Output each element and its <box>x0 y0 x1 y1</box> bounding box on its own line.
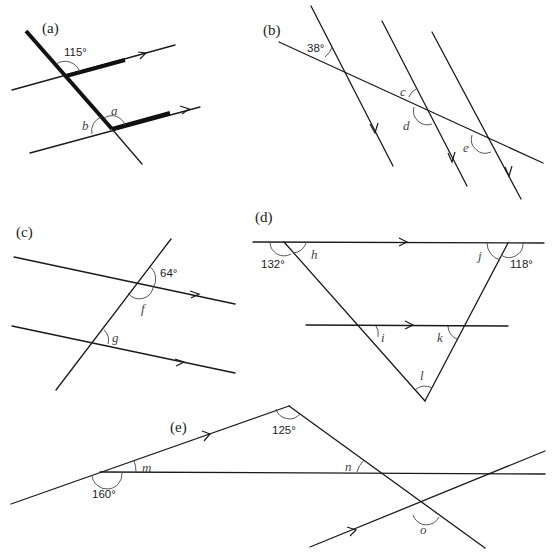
parallel-line-2 <box>12 326 235 373</box>
angle-arc-d <box>413 107 432 125</box>
angles-worksheet: (a) 115° a b (b) 38° c d e <box>0 0 560 560</box>
parallel-line-1 <box>311 6 393 166</box>
angle-arc-l <box>415 386 432 390</box>
angle-arc-160 <box>92 473 122 489</box>
parallel-line-1-bold <box>66 60 125 76</box>
angle-label-k: k <box>437 330 443 345</box>
angle-arc-j <box>487 243 500 260</box>
parallel-line-2 <box>382 21 467 186</box>
angle-arc-125 <box>276 409 300 419</box>
angle-label-m: m <box>142 460 151 475</box>
parallel-line-1 <box>14 257 235 304</box>
angle-arc-h <box>293 243 306 253</box>
angle-arc-132 <box>270 243 291 256</box>
angle-label-38: 38° <box>307 42 324 54</box>
transversal <box>279 42 543 163</box>
parallel-arrow-icon <box>180 106 189 114</box>
descending-line <box>289 406 485 548</box>
angle-label-d: d <box>403 118 410 133</box>
transversal <box>56 239 171 390</box>
angle-label-a: a <box>111 103 118 118</box>
diagram-d-label: (d) <box>255 209 273 226</box>
angle-arc-m <box>134 461 136 472</box>
angle-label-l: l <box>420 368 424 383</box>
triangle-left-side <box>284 242 425 401</box>
middle-parallel-line <box>306 325 508 326</box>
angle-arc-i <box>376 326 378 337</box>
angle-label-j: j <box>476 248 482 263</box>
angle-label-118: 118° <box>510 258 533 270</box>
diagram-e: (e) 125° 160° m n o <box>11 406 545 548</box>
angle-label-i: i <box>381 330 385 345</box>
horizontal-line <box>100 472 545 474</box>
diagram-a: (a) 115° a b <box>12 20 200 164</box>
upper-left-line <box>11 406 289 504</box>
diagram-c: (c) 64° f g <box>12 224 235 390</box>
angle-label-b: b <box>82 118 89 133</box>
angle-arc-k <box>448 326 457 339</box>
top-parallel-line <box>253 242 544 243</box>
diagram-c-label: (c) <box>16 224 33 241</box>
angle-arc-38 <box>325 47 332 57</box>
angle-label-g: g <box>112 330 119 345</box>
diagram-e-label: (e) <box>170 419 187 436</box>
angle-label-f: f <box>141 301 147 316</box>
angle-label-160: 160° <box>92 488 116 500</box>
angle-arc-c <box>409 89 416 97</box>
diagram-b-label: (b) <box>263 22 281 39</box>
angle-arc-g <box>104 330 109 344</box>
diagram-b: (b) 38° c d e <box>263 6 543 199</box>
angle-arc-64 <box>149 266 156 288</box>
parallel-line-2-bold <box>112 113 170 129</box>
angle-arc-b <box>92 117 102 134</box>
angle-label-c: c <box>400 84 406 99</box>
angle-label-n: n <box>345 459 352 474</box>
diagram-a-label: (a) <box>42 20 59 37</box>
angle-label-e: e <box>463 140 469 155</box>
parallel-arrow-icon <box>175 359 184 366</box>
angle-label-64: 64° <box>160 267 177 279</box>
angle-label-125: 125° <box>272 424 296 436</box>
angle-arc-n <box>357 460 364 472</box>
angle-label-115: 115° <box>64 46 87 58</box>
angle-label-h: h <box>311 247 318 262</box>
angle-label-132: 132° <box>261 258 285 270</box>
angle-label-o: o <box>420 522 427 537</box>
triangle-right-side <box>425 243 508 401</box>
transversal-thin <box>112 129 142 164</box>
diagram-d: (d) 132° h j 118° i k l <box>253 209 544 401</box>
